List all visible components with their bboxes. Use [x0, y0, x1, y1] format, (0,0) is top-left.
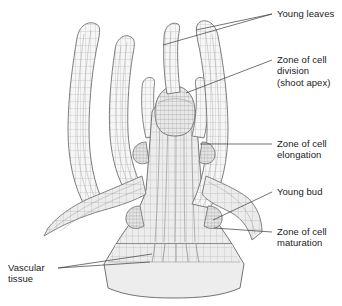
label-vascular-tissue-line2: tissue: [8, 273, 45, 284]
label-zone-division-line3: (shoot apex): [277, 77, 330, 88]
label-zone-of-cell-division: Zone of cell division (shoot apex): [277, 54, 330, 88]
label-zone-maturation-line1: Zone of cell: [277, 226, 327, 237]
label-zone-elongation-line1: Zone of cell: [277, 138, 327, 149]
label-zone-elongation-line2: elongation: [277, 149, 327, 160]
leaf-inner-left: [109, 36, 142, 194]
label-zone-division-line1: Zone of cell: [277, 54, 330, 65]
label-young-bud: Young bud: [277, 186, 323, 197]
leaf-outer-left: [68, 23, 104, 208]
shoot-apex-dome: [155, 86, 195, 136]
label-zone-of-cell-elongation: Zone of cell elongation: [277, 138, 327, 161]
diagram-canvas: Young leaves Zone of cell division (shoo…: [0, 0, 342, 306]
label-zone-maturation-line2: maturation: [277, 237, 327, 248]
leaf-inner-right: [164, 23, 180, 94]
leader-zone-division: [186, 60, 272, 93]
plant-body: [44, 21, 262, 298]
label-zone-division-line2: division: [277, 65, 330, 76]
stem-base: [104, 244, 244, 298]
label-young-leaves: Young leaves: [277, 8, 334, 19]
label-young-bud-line1: Young bud: [277, 186, 323, 197]
label-zone-of-cell-maturation: Zone of cell maturation: [277, 226, 327, 249]
label-vascular-tissue-line1: Vascular: [8, 262, 45, 273]
lateral-bud-left-upper: [133, 142, 149, 164]
label-young-leaves-line1: Young leaves: [277, 8, 334, 19]
label-vascular-tissue: Vascular tissue: [8, 262, 45, 285]
